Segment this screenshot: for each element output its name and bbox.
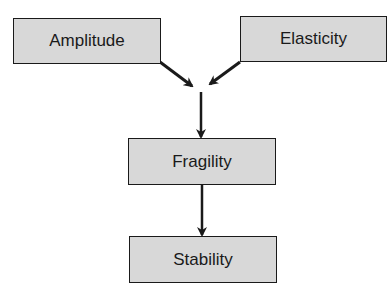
node-label: Elasticity <box>280 29 347 49</box>
node-elasticity: Elasticity <box>240 16 387 62</box>
node-fragility: Fragility <box>128 138 276 185</box>
node-label: Fragility <box>172 152 232 172</box>
flow-diagram: Amplitude Elasticity Fragility Stability <box>0 0 391 288</box>
node-amplitude: Amplitude <box>13 18 161 64</box>
arrow-elasticity-to-merge <box>210 62 240 84</box>
arrow-amplitude-to-merge <box>160 62 192 86</box>
node-stability: Stability <box>129 236 277 283</box>
node-label: Amplitude <box>49 31 125 51</box>
node-label: Stability <box>173 250 233 270</box>
